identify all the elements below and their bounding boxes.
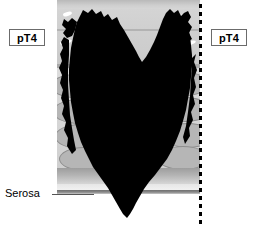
lamina-propria-line bbox=[57, 29, 200, 31]
mucosa-layer bbox=[57, 0, 200, 68]
muscularis-propria-layer bbox=[57, 68, 200, 168]
muscle-bundle bbox=[57, 99, 105, 124]
muscle-bundle bbox=[57, 124, 105, 149]
serosa-label: Serosa bbox=[5, 187, 40, 199]
muscle-bundle bbox=[161, 72, 200, 96]
muscle-bundle bbox=[163, 123, 200, 148]
muscle-bundle bbox=[157, 146, 200, 170]
muscle-bundle bbox=[159, 97, 200, 122]
serosa-leader-line bbox=[52, 194, 94, 195]
figure-canvas: pT4 pT4 Serosa bbox=[0, 0, 254, 231]
stage-label-right: pT4 bbox=[211, 29, 247, 46]
muscle-bundle bbox=[57, 74, 99, 98]
epithelium-surface bbox=[57, 0, 200, 9]
resection-margin-dotted-line bbox=[199, 4, 202, 228]
subserosa-layer bbox=[57, 168, 200, 184]
bowel-wall-section bbox=[57, 0, 200, 196]
stage-label-left: pT4 bbox=[9, 29, 45, 46]
